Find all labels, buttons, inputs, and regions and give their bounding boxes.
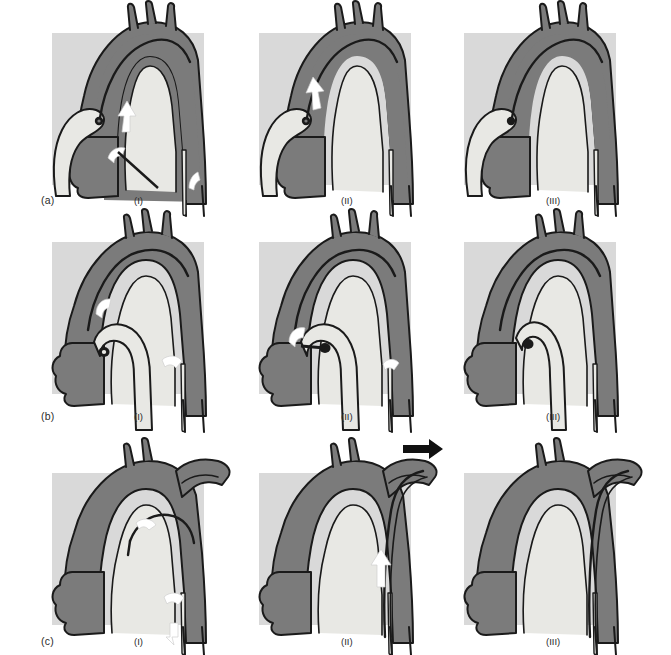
panel-c-i: (c) [26,437,231,655]
dark-arrow-branch-direction [403,439,443,459]
graft-proximal-cuff [523,339,534,349]
panel-label-c-iii: (III) [546,637,560,647]
figure-row-a: (a) (I) [0,0,671,218]
panel-c-iii [438,437,643,655]
graft-proximal-cuff [99,347,110,357]
figure-row-c: (c) (I) [0,437,671,655]
panel-b-iii [438,218,643,436]
panel-label-c-i: (I) [134,637,143,647]
panel-c-ii [233,437,438,655]
panel-b-ii [233,218,438,436]
panel-a-iii [438,0,643,218]
panel-b-i: (b) [26,218,231,436]
figure-row-b: (b) (I) [0,218,671,436]
entry-tear-marker [95,117,103,125]
row-label-c: (c) [41,636,54,647]
panel-label-b-ii: (II) [341,412,353,422]
row-label-b: (b) [41,411,54,422]
panel-label-b-iii: (III) [546,412,560,422]
entry-tear-marker [302,117,310,125]
panel-label-a-iii: (III) [546,196,560,206]
panel-label-b-i: (I) [134,412,143,422]
panel-a-i: (a) [26,0,231,218]
panel-label-a-ii: (II) [341,196,353,206]
panel-label-c-ii: (II) [341,637,353,647]
entry-tear-marker [507,117,515,125]
panel-label-a-i: (I) [134,196,143,206]
figure-sheet: (a) (I) [0,0,671,655]
panel-a-ii [233,0,438,218]
row-label-a: (a) [41,195,54,206]
